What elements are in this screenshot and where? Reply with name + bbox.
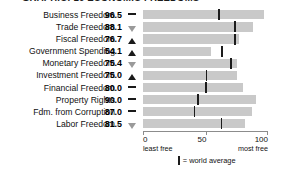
trend-up-icon xyxy=(128,74,136,80)
trend-flat-icon xyxy=(128,98,136,100)
chart-row: Monetary Freedom75.4 xyxy=(0,57,283,69)
row-trend xyxy=(126,94,138,106)
value-bar xyxy=(143,47,211,56)
axis-tick-label: 0 xyxy=(143,135,147,144)
world-average-tick xyxy=(234,34,236,45)
row-value: 80.0 xyxy=(98,82,122,94)
axis-caption-most-free: most free xyxy=(238,144,268,153)
row-value: 54.1 xyxy=(98,45,122,57)
row-plot xyxy=(143,21,268,33)
trend-flat-icon xyxy=(128,110,136,112)
legend-label: = world average xyxy=(183,156,236,165)
x-axis: least free most free 050100 xyxy=(143,131,268,136)
economic-freedoms-chart: GRAPHIC: 10 ECONOMIC FREEDOMS Business F… xyxy=(0,0,283,171)
trend-flat-icon xyxy=(128,86,136,88)
value-bar xyxy=(143,119,245,128)
world-average-tick xyxy=(218,9,220,20)
value-bar xyxy=(143,59,237,68)
chart-rows: Business Freedom96.5Trade Freedom88.1Fis… xyxy=(0,9,283,130)
row-value: 76.7 xyxy=(98,33,122,45)
row-plot xyxy=(143,45,268,57)
chart-row: Business Freedom96.5 xyxy=(0,9,283,21)
chart-row: Labor Freedom81.5 xyxy=(0,118,283,130)
world-average-tick xyxy=(194,106,196,117)
row-plot xyxy=(143,57,268,69)
world-average-marker-icon xyxy=(178,156,180,165)
row-trend xyxy=(126,45,138,57)
row-trend xyxy=(126,9,138,21)
chart-row: Investment Freedom75.0 xyxy=(0,69,283,81)
world-average-tick xyxy=(234,21,236,32)
world-average-tick xyxy=(221,118,223,129)
world-average-tick xyxy=(206,70,208,81)
value-bar xyxy=(143,71,237,80)
row-trend xyxy=(126,33,138,45)
row-plot xyxy=(143,82,268,94)
axis-tick-label: 100 xyxy=(255,135,268,144)
world-average-tick xyxy=(221,46,223,57)
row-plot xyxy=(143,33,268,45)
chart-row: Fdm. from Corruption87.0 xyxy=(0,106,283,118)
trend-down-icon xyxy=(128,123,136,129)
row-value: 75.0 xyxy=(98,69,122,81)
row-trend xyxy=(126,106,138,118)
chart-row: Property Rights90.0 xyxy=(0,94,283,106)
value-bar xyxy=(143,95,256,104)
row-value: 88.1 xyxy=(98,21,122,33)
chart-row: Fiscal Freedom76.7 xyxy=(0,33,283,45)
legend: = world average xyxy=(178,155,236,166)
chart-row: Financial Freedom80.0 xyxy=(0,82,283,94)
chart-title: GRAPHIC: 10 ECONOMIC FREEDOMS xyxy=(22,0,262,3)
row-trend xyxy=(126,82,138,94)
trend-down-icon xyxy=(128,26,136,32)
world-average-tick xyxy=(230,58,232,69)
row-plot xyxy=(143,69,268,81)
world-average-tick xyxy=(205,82,207,93)
chart-row: Government Spending54.1 xyxy=(0,45,283,57)
world-average-tick xyxy=(197,94,199,105)
row-plot xyxy=(143,118,268,130)
trend-down-icon xyxy=(128,62,136,68)
row-value: 81.5 xyxy=(98,118,122,130)
row-value: 90.0 xyxy=(98,94,122,106)
row-trend xyxy=(126,21,138,33)
row-value: 96.5 xyxy=(98,9,122,21)
row-plot xyxy=(143,9,268,21)
trend-flat-icon xyxy=(128,13,136,15)
trend-up-icon xyxy=(128,50,136,56)
axis-caption-least-free: least free xyxy=(143,144,173,153)
row-plot xyxy=(143,94,268,106)
row-value: 87.0 xyxy=(98,106,122,118)
value-bar xyxy=(143,83,243,92)
value-bar xyxy=(143,10,264,19)
value-bar xyxy=(143,34,239,43)
row-value: 75.4 xyxy=(98,57,122,69)
chart-row: Trade Freedom88.1 xyxy=(0,21,283,33)
row-plot xyxy=(143,106,268,118)
row-trend xyxy=(126,57,138,69)
axis-tick-label: 50 xyxy=(198,135,207,144)
value-bar xyxy=(143,107,252,116)
row-trend xyxy=(126,118,138,130)
trend-up-icon xyxy=(128,38,136,44)
value-bar xyxy=(143,22,253,31)
row-trend xyxy=(126,69,138,81)
